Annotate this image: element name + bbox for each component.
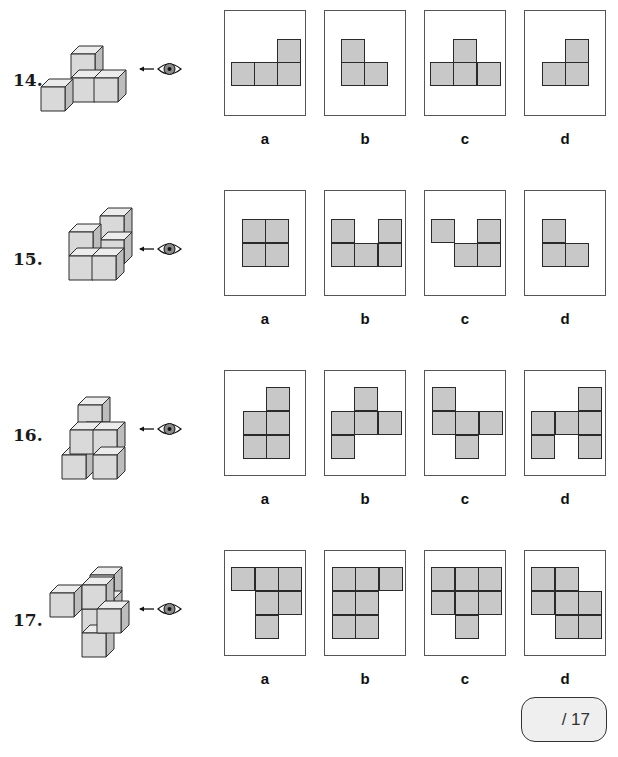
cube-figure-15 bbox=[69, 208, 132, 280]
view-square bbox=[555, 567, 579, 591]
view-square bbox=[355, 591, 379, 615]
viewing-direction-eye-icon bbox=[138, 598, 188, 620]
view-square bbox=[255, 615, 279, 639]
option-b-box[interactable] bbox=[324, 10, 406, 116]
view-square bbox=[542, 219, 566, 243]
cube bbox=[93, 447, 125, 479]
option-a-box[interactable] bbox=[224, 370, 306, 476]
viewing-direction-eye-icon bbox=[138, 238, 188, 260]
view-square bbox=[542, 243, 566, 267]
cube bbox=[94, 70, 126, 102]
view-square bbox=[332, 591, 356, 615]
view-square bbox=[477, 62, 501, 86]
view-square bbox=[266, 435, 290, 459]
option-b-box[interactable] bbox=[324, 550, 406, 656]
option-a-box[interactable] bbox=[224, 190, 306, 296]
option-c-box[interactable] bbox=[424, 370, 506, 476]
view-square bbox=[255, 567, 279, 591]
option-d-label: d bbox=[524, 490, 606, 507]
option-d-box[interactable] bbox=[524, 190, 606, 296]
view-square bbox=[378, 243, 402, 267]
option-d-box[interactable] bbox=[524, 10, 606, 116]
view-square bbox=[231, 567, 255, 591]
view-square bbox=[431, 567, 455, 591]
option-b-label: b bbox=[324, 310, 406, 327]
view-square bbox=[477, 243, 501, 267]
view-square bbox=[243, 411, 267, 435]
view-square bbox=[478, 591, 502, 615]
view-square bbox=[455, 567, 479, 591]
cube-figures bbox=[0, 0, 210, 757]
option-a-label: a bbox=[224, 310, 306, 327]
cube-figure-17 bbox=[50, 567, 129, 657]
view-square bbox=[453, 62, 477, 86]
view-square bbox=[255, 591, 279, 615]
view-square bbox=[455, 411, 479, 435]
option-c-box[interactable] bbox=[424, 10, 506, 116]
cube-figure-14 bbox=[41, 46, 126, 111]
view-square bbox=[455, 615, 479, 639]
view-square bbox=[378, 411, 402, 435]
option-b-label: b bbox=[324, 130, 406, 147]
option-b-label: b bbox=[324, 490, 406, 507]
view-square bbox=[455, 435, 479, 459]
arrow-left-icon bbox=[139, 607, 154, 612]
eye-icon bbox=[158, 424, 181, 435]
view-square bbox=[578, 435, 602, 459]
option-d-label: d bbox=[524, 310, 606, 327]
option-b-box[interactable] bbox=[324, 190, 406, 296]
view-square bbox=[431, 219, 455, 243]
option-d-box[interactable] bbox=[524, 370, 606, 476]
view-square bbox=[578, 387, 602, 411]
view-square bbox=[565, 39, 589, 63]
view-square bbox=[479, 411, 503, 435]
option-c-label: c bbox=[424, 130, 506, 147]
view-square bbox=[531, 591, 555, 615]
view-square bbox=[331, 243, 355, 267]
view-square bbox=[278, 567, 302, 591]
view-square bbox=[354, 243, 378, 267]
view-square bbox=[331, 411, 355, 435]
viewing-direction-eye-icon bbox=[138, 58, 188, 80]
arrow-left-icon bbox=[139, 67, 154, 72]
view-square bbox=[265, 243, 289, 267]
view-square bbox=[432, 411, 456, 435]
view-square bbox=[565, 243, 589, 267]
view-square bbox=[431, 591, 455, 615]
option-a-box[interactable] bbox=[224, 550, 306, 656]
option-c-box[interactable] bbox=[424, 550, 506, 656]
viewing-direction-eye-icon bbox=[138, 418, 188, 440]
option-c-label: c bbox=[424, 670, 506, 687]
option-d-box[interactable] bbox=[524, 550, 606, 656]
option-c-label: c bbox=[424, 490, 506, 507]
view-square bbox=[531, 411, 555, 435]
eye-icon bbox=[158, 244, 181, 255]
view-square bbox=[331, 435, 355, 459]
view-square bbox=[266, 387, 290, 411]
view-square bbox=[555, 615, 579, 639]
view-square bbox=[331, 219, 355, 243]
arrow-left-icon bbox=[139, 427, 154, 432]
eye-icon bbox=[158, 604, 181, 615]
eye-icon bbox=[158, 64, 181, 75]
question-number: 16. bbox=[13, 425, 43, 445]
view-square bbox=[531, 567, 555, 591]
view-square bbox=[266, 411, 290, 435]
view-square bbox=[454, 243, 478, 267]
option-b-box[interactable] bbox=[324, 370, 406, 476]
view-square bbox=[430, 62, 454, 86]
view-square bbox=[277, 62, 301, 86]
option-a-box[interactable] bbox=[224, 10, 306, 116]
view-square bbox=[542, 62, 566, 86]
view-square bbox=[341, 39, 365, 63]
view-square bbox=[355, 615, 379, 639]
view-square bbox=[243, 435, 267, 459]
view-square bbox=[231, 62, 255, 86]
view-square bbox=[278, 591, 302, 615]
arrow-left-icon bbox=[139, 247, 154, 252]
view-square bbox=[379, 567, 403, 591]
view-square bbox=[378, 219, 402, 243]
view-square bbox=[277, 39, 301, 63]
option-c-box[interactable] bbox=[424, 190, 506, 296]
view-square bbox=[265, 219, 289, 243]
